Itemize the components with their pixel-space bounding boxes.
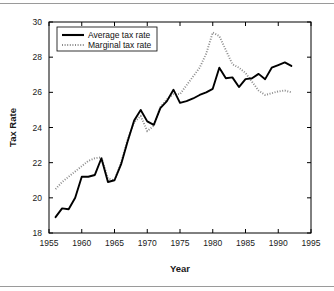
y-tick-26: 26: [33, 87, 43, 97]
x-tick-1965: 1965: [105, 238, 124, 248]
y-tick-20: 20: [33, 193, 43, 203]
y-tick-28: 28: [33, 52, 43, 62]
legend-label-average-tax-rate: Average tax rate: [88, 30, 150, 40]
y-axis-title: Tax Rate: [7, 108, 18, 147]
y-tick-22: 22: [33, 158, 43, 168]
figure-root: 18202224262830 1955196019651970197519801…: [0, 0, 334, 291]
x-tick-1985: 1985: [236, 238, 255, 248]
x-axis-tick-labels: 195519601965197019751980198519901995: [40, 238, 321, 248]
x-tick-1960: 1960: [72, 238, 91, 248]
x-tick-1995: 1995: [302, 238, 321, 248]
y-tick-18: 18: [33, 228, 43, 238]
x-tick-1980: 1980: [203, 238, 222, 248]
x-tick-1955: 1955: [40, 238, 59, 248]
axis-tickmarks: [49, 22, 311, 233]
series-line-marginal-tax-rate: [56, 33, 292, 189]
tax-rate-line-chart: 18202224262830 1955196019651970197519801…: [0, 4, 334, 287]
y-axis-tick-labels: 18202224262830: [33, 17, 43, 238]
x-axis-title: Year: [170, 263, 190, 274]
plot-frame: [49, 22, 311, 233]
legend-label-marginal-tax-rate: Marginal tax rate: [88, 40, 152, 50]
x-tick-1990: 1990: [269, 238, 288, 248]
y-tick-30: 30: [33, 17, 43, 27]
y-tick-24: 24: [33, 123, 43, 133]
x-tick-1970: 1970: [138, 238, 157, 248]
x-tick-1975: 1975: [171, 238, 190, 248]
chart-legend: Average tax rate Marginal tax rate: [57, 27, 157, 51]
